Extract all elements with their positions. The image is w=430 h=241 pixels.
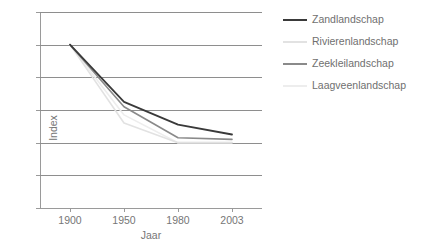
x-tick-mark — [124, 208, 125, 212]
x-tick-label: 2003 — [220, 214, 243, 226]
legend-label: Zandlandschap — [312, 13, 384, 26]
x-tick-label: 1980 — [166, 214, 189, 226]
legend-label: Rivierenlandschap — [312, 35, 398, 48]
x-axis-line — [40, 208, 262, 209]
series-line — [70, 45, 232, 143]
chart-figure: Index 020406080100120 1900195019802003 J… — [0, 0, 430, 241]
x-tick-mark — [232, 208, 233, 212]
legend-item[interactable]: Laagveenlandschap — [282, 74, 428, 96]
series-line — [70, 45, 232, 135]
legend-label: Laagveenlandschap — [312, 79, 406, 92]
series-line — [70, 45, 232, 140]
y-tick-mark — [36, 208, 40, 209]
x-tick-label: 1950 — [112, 214, 135, 226]
x-tick-label: 1900 — [58, 214, 81, 226]
legend-label: Zeekleilandschap — [312, 57, 394, 70]
x-tick-mark — [178, 208, 179, 212]
x-tick-mark — [70, 208, 71, 212]
plot-container: Index 020406080100120 1900195019802003 J… — [0, 0, 275, 241]
series-lines — [40, 12, 262, 208]
legend-line-swatch — [282, 80, 308, 91]
legend-line-swatch — [282, 58, 308, 69]
legend: ZandlandschapRivierenlandschapZeekleilan… — [282, 8, 428, 96]
legend-line-swatch — [282, 36, 308, 47]
legend-item[interactable]: Zeekleilandschap — [282, 52, 428, 74]
legend-item[interactable]: Zandlandschap — [282, 8, 428, 30]
x-axis-title: Jaar — [141, 229, 161, 241]
legend-item[interactable]: Rivierenlandschap — [282, 30, 428, 52]
legend-line-swatch — [282, 14, 308, 25]
